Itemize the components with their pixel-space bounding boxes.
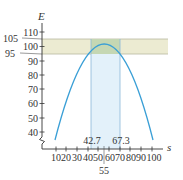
x-tick-40: 40 [83,152,93,163]
y-tick-70: 70 [28,84,38,95]
chart: 110 100 90 80 70 60 50 40 105 95 E 10 20… [0,0,183,180]
interval-right-label: 67.3 [112,135,130,146]
y-tick-100: 100 [23,41,38,52]
x-tick-70: 70 [115,152,125,163]
x-tick-60: 60 [105,152,115,163]
y-tick-60: 60 [28,98,38,109]
x-tick-20: 20 [61,152,71,163]
label-95-leader [20,53,42,54]
band-high-label: 105 [3,33,18,44]
y-tick-labels: 110 100 90 80 70 60 50 40 [23,27,38,138]
band-low-label: 95 [5,48,15,59]
x-axis-title: s [167,141,171,153]
y-tick-80: 80 [28,70,38,81]
y-tick-110: 110 [23,27,38,38]
x-tick-30: 30 [72,152,82,163]
y-axis-title: E [37,10,45,22]
interval-left-label: 42.7 [83,135,101,146]
x-tick-50: 50 [93,152,103,163]
x-tick-90: 90 [136,152,146,163]
vertex-s-label: 55 [99,165,109,176]
label-105-leader [22,38,42,39]
x-tick-10: 10 [51,152,61,163]
y-tick-90: 90 [28,56,38,67]
x-tick-100: 100 [147,152,162,163]
y-tick-40: 40 [28,127,38,138]
y-tick-50: 50 [28,113,38,124]
axis-break-icon [40,137,45,149]
x-tick-80: 80 [126,152,136,163]
